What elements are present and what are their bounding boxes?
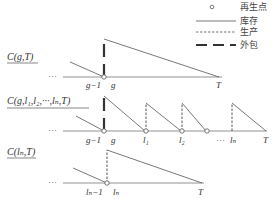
panel-title: C(g,l₁,l₂,···,lₙ,T) bbox=[7, 95, 71, 107]
panel-title: C(lₙ,T) bbox=[7, 146, 36, 158]
legend-label-production: 生产 bbox=[240, 26, 258, 37]
regeneration-point-icon bbox=[102, 75, 106, 79]
panel-c-g-t: C(g,T) ··· g−1 g T bbox=[7, 38, 222, 90]
tick-label: g−1 bbox=[86, 135, 101, 145]
panel-c-g-l-t: C(g,l₁,l₂,···,lₙ,T) ··· g−1 g l₁ l₂ ··· … bbox=[7, 95, 269, 145]
legend: 再生点 库存 生产 外包 bbox=[196, 1, 267, 50]
tick-label: g bbox=[111, 80, 116, 90]
panel-title: C(g,T) bbox=[7, 51, 34, 63]
tick-label: T bbox=[198, 187, 204, 197]
tick-label: T bbox=[216, 80, 222, 90]
inventory-line-incoming bbox=[70, 62, 104, 77]
inventory-line bbox=[107, 150, 202, 183]
ellipsis: ··· bbox=[48, 71, 57, 81]
inventory-line bbox=[146, 103, 181, 131]
regeneration-point-icon bbox=[210, 5, 214, 9]
tick-label: l₂ bbox=[179, 135, 185, 145]
regeneration-point-icon bbox=[144, 129, 148, 133]
tick-label: lₙ−1 bbox=[86, 187, 103, 197]
inventory-line-incoming bbox=[73, 168, 107, 183]
inventory-line bbox=[232, 103, 266, 131]
regeneration-point-icon bbox=[205, 129, 209, 133]
inventory-line-incoming bbox=[76, 116, 104, 131]
inventory-line bbox=[104, 96, 145, 131]
tick-label: lₙ bbox=[113, 187, 120, 197]
panel-c-ln-t: C(lₙ,T) ··· lₙ−1 lₙ T bbox=[7, 146, 204, 197]
regeneration-point-icon bbox=[105, 181, 109, 185]
tick-label: l₁ bbox=[143, 135, 149, 145]
regeneration-point-icon bbox=[102, 129, 106, 133]
tick-ellipsis: ··· bbox=[216, 135, 225, 145]
diagram-canvas: 再生点 库存 生产 外包 C(g,T) ··· g−1 g T C(g,l₁,l… bbox=[0, 0, 276, 203]
tick-label: lₙ bbox=[230, 135, 237, 145]
tick-label: g−1 bbox=[86, 80, 101, 90]
ellipsis: ··· bbox=[48, 125, 57, 135]
ellipsis: ··· bbox=[48, 177, 57, 187]
tick-label: g bbox=[111, 135, 116, 145]
inventory-line bbox=[182, 103, 206, 131]
legend-label-inventory: 库存 bbox=[240, 15, 258, 26]
tick-label: T bbox=[263, 135, 269, 145]
legend-label-outsourcing: 外包 bbox=[240, 39, 258, 50]
legend-label-regeneration-point: 再生点 bbox=[240, 1, 267, 12]
regeneration-point-icon bbox=[180, 129, 184, 133]
